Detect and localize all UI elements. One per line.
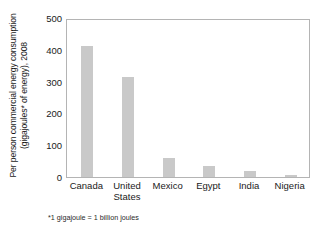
x-tick-label-line: Canada	[70, 180, 103, 191]
y-axis-title-line-1: Per person commercial energy consumption	[8, 13, 19, 177]
x-tick-label-line: Egypt	[196, 180, 220, 191]
y-axis-tick-labels: 0100200300400500	[36, 12, 65, 184]
x-tick-label: UnitedStates	[107, 180, 148, 202]
bar-egypt	[203, 166, 215, 177]
x-tick-label: Nigeria	[269, 180, 310, 191]
x-tick-label-line: India	[239, 180, 260, 191]
x-tick-label-line: Nigeria	[275, 180, 305, 191]
y-tick-label: 0	[36, 173, 62, 183]
chart-footnote: *1 gigajoule = 1 billion joules	[48, 213, 139, 222]
y-axis-title: Per person commercial energy consumption…	[0, 0, 36, 190]
bar-chart-figure: Per person commercial energy consumption…	[0, 0, 321, 236]
bar-united-states	[122, 77, 134, 177]
x-tick-label-line: States	[107, 191, 148, 202]
y-tick-label: 100	[36, 141, 62, 151]
y-tick-label: 200	[36, 109, 62, 119]
x-tick-label-line: United	[113, 180, 140, 191]
x-axis-tick-labels: CanadaUnitedStatesMexicoEgyptIndiaNigeri…	[66, 180, 310, 208]
bar-canada	[81, 46, 93, 177]
x-tick-label: Egypt	[188, 180, 229, 191]
bar-nigeria	[285, 175, 297, 177]
x-tick-label: Mexico	[147, 180, 188, 191]
x-tick-label: India	[229, 180, 270, 191]
bar-mexico	[163, 158, 175, 177]
bars-layer	[67, 20, 309, 177]
y-tick-label: 300	[36, 78, 62, 88]
plot-area	[66, 19, 310, 178]
y-tick-label: 500	[36, 14, 62, 24]
y-axis-title-line-2: (gigajoules* of energy), 2008	[18, 13, 29, 177]
x-tick-label: Canada	[66, 180, 107, 191]
x-tick-label-line: Mexico	[153, 180, 183, 191]
y-tick-label: 400	[36, 46, 62, 56]
bar-india	[244, 171, 256, 177]
